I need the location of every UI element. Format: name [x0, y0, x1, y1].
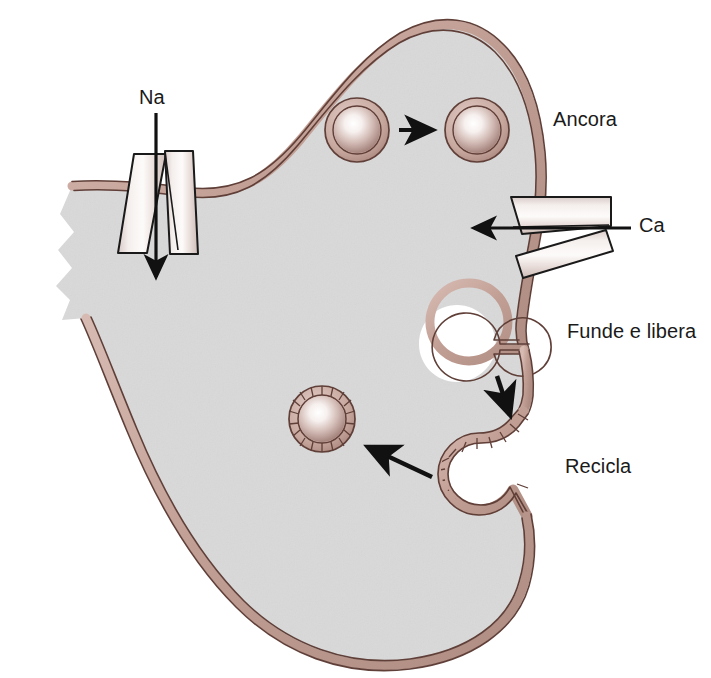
label-fuse-and-release: Funde e libera: [567, 320, 696, 343]
label-sodium: Na: [139, 86, 165, 109]
sodium-channel-cylinder-right: [165, 151, 198, 254]
vesicle-docked-2: [445, 98, 509, 162]
vesicle-coated: [289, 386, 355, 452]
label-anchor: Ancora: [553, 108, 617, 131]
figure-root: Na Ca Ancora Funde e libera Recicla: [0, 0, 711, 678]
vesicle-docked-1: [325, 98, 389, 162]
label-recycle: Recicla: [565, 455, 631, 478]
label-calcium: Ca: [639, 214, 665, 237]
